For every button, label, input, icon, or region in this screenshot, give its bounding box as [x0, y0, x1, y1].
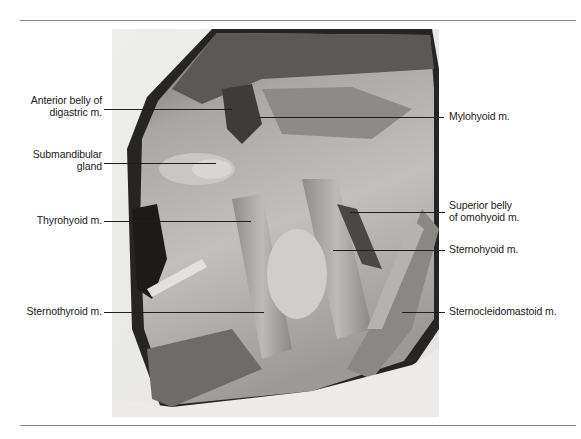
leader-superior-belly-omohyoid [350, 212, 445, 213]
dissection-photo [112, 29, 439, 417]
leader-thyrohyoid [104, 221, 251, 222]
leader-sternocleidomastoid [402, 312, 445, 313]
label-sternothyroid: Sternothyroid m. [27, 306, 102, 318]
label-mylohyoid: Mylohyoid m. [449, 111, 510, 123]
label-sternocleidomastoid: Sternocleidomastoid m. [449, 306, 557, 318]
bottom-rule [20, 425, 576, 426]
leader-sternothyroid [104, 312, 264, 313]
label-submandibular-gland: Submandibular gland [33, 149, 102, 172]
leader-mylohyoid [258, 117, 444, 118]
label-thyrohyoid: Thyrohyoid m. [37, 215, 102, 227]
label-anterior-belly-digastric: Anterior belly of digastric m. [31, 95, 102, 118]
leader-sternohyoid [333, 250, 445, 251]
label-superior-belly-omohyoid: Superior belly of omohyoid m. [449, 200, 519, 223]
leader-submandibular-gland [104, 163, 216, 164]
label-sternohyoid: Sternohyoid m. [449, 244, 518, 256]
top-rule [20, 20, 576, 21]
leader-anterior-belly-digastric [104, 109, 232, 110]
